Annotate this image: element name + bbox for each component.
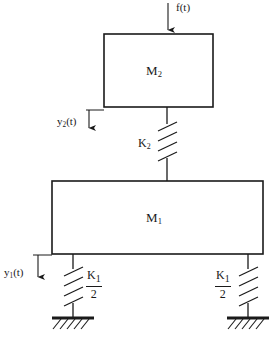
- mass-label-m1: M1: [146, 211, 162, 224]
- spring-label-k2-text: K: [138, 136, 147, 150]
- displacement-label-y1: y1(t): [4, 267, 24, 278]
- spring-k1-left: [64, 254, 83, 318]
- ground-support-left: [52, 318, 94, 329]
- spring-label-k1-left-numerator: K1: [86, 269, 102, 287]
- spring-label-k1-left-text: K: [87, 268, 96, 282]
- spring-label-k1-right-subscript: 1: [225, 273, 230, 284]
- spring-label-k1-right-denominator: 2: [215, 287, 231, 300]
- mass-label-m2-text: M: [146, 63, 158, 78]
- diagram-canvas: [0, 0, 275, 342]
- spring-label-k1-right-numerator: K1: [215, 269, 231, 287]
- spring-label-k2-subscript: 2: [147, 142, 151, 151]
- force-label-ft: f(t): [176, 2, 190, 13]
- spring-label-k1-left-subscript: 1: [96, 273, 101, 284]
- spring-k1-right: [239, 254, 258, 318]
- spring-label-k1-left-denominator: 2: [86, 287, 102, 300]
- ground-support-right: [227, 318, 269, 329]
- displacement-label-y1-suffix: (t): [13, 266, 23, 278]
- displacement-label-y2-suffix: (t): [66, 115, 76, 127]
- spring-label-k1-right: K1 2: [215, 269, 231, 300]
- displacement-label-y1-subscript: 1: [10, 272, 14, 280]
- mass-label-m1-subscript: 1: [158, 216, 163, 226]
- spring-k2: [158, 107, 177, 181]
- spring-label-k2: K2: [138, 137, 151, 149]
- mass-label-m2-subscript: 2: [158, 69, 163, 79]
- mass-label-m2: M2: [146, 64, 162, 77]
- displacement-label-y2-subscript: 2: [63, 121, 67, 129]
- mass-label-m1-text: M: [146, 210, 158, 225]
- mass-spring-diagram: f(t) M2 y2(t) K2 M1 y1(t) K1 2 K1 2: [0, 0, 275, 342]
- displacement-indicator-y2: [86, 110, 104, 128]
- spring-label-k1-left: K1 2: [86, 269, 102, 300]
- displacement-label-y2-text: y: [57, 115, 63, 127]
- displacement-indicator-y1: [33, 255, 52, 277]
- displacement-label-y2: y2(t): [57, 116, 77, 127]
- spring-label-k1-right-text: K: [216, 268, 225, 282]
- displacement-label-y1-text: y: [4, 266, 10, 278]
